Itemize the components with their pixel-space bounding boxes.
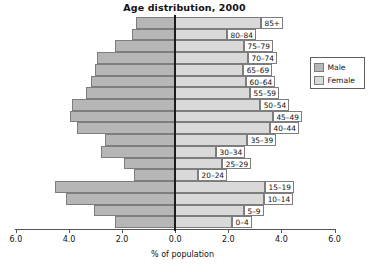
x-axis-title: % of population [0,250,369,259]
legend-label-female: Female [328,76,355,85]
x-axis-tick-label: 6.0 [328,235,341,244]
legend-item-female: Female [314,74,364,86]
bar-female [175,169,198,181]
age-group-label: 5–9 [244,205,264,217]
bar-female [175,52,248,64]
x-axis-tick [335,229,336,233]
legend: Male Female [310,57,365,89]
age-group-label: 85+ [261,17,283,29]
bar-male [132,29,175,41]
bar-female [175,181,265,193]
pyramid-row: 30–34 [0,146,369,158]
plot-area: 85+80–8475–7970–7465–6960–6455–5950–5445… [0,17,369,229]
bar-female [175,17,261,29]
pyramid-row: 55–59 [0,87,369,99]
age-group-label: 0–4 [232,216,252,228]
age-group-label: 50–54 [260,99,289,111]
bar-female [175,122,270,134]
legend-item-male: Male [314,61,364,73]
x-axis-tick [69,229,70,233]
pyramid-row: 50–54 [0,99,369,111]
bar-female [175,29,227,41]
x-axis-tick-label: 6.0 [10,235,23,244]
age-group-label: 20–24 [198,169,227,181]
bar-female [175,146,216,158]
chart-title: Age distribution, 2000 [0,2,369,13]
pyramid-row: 0–4 [0,216,369,228]
age-group-label: 70–74 [248,52,277,64]
bar-female [175,216,232,228]
x-axis: 6.04.02.00.02.04.06.0 % of population [0,229,369,274]
age-group-label: 45–49 [273,111,302,123]
bar-female [175,76,246,88]
bar-male [115,216,175,228]
x-axis-tick [228,229,229,233]
bar-female [175,111,273,123]
bar-female [175,64,243,76]
x-axis-tick-label: 2.0 [222,235,235,244]
age-group-label: 30–34 [216,146,245,158]
bar-male [95,64,175,76]
age-group-label: 55–59 [250,87,279,99]
bar-male [72,99,175,111]
age-group-label: 40–44 [270,122,299,134]
age-group-label: 65–69 [243,64,272,76]
age-group-label: 15–19 [265,181,294,193]
x-axis-tick [281,229,282,233]
bar-female [175,158,222,170]
pyramid-row: 85+ [0,17,369,29]
pyramid-row: 75–79 [0,40,369,52]
pyramid-row: 20–24 [0,169,369,181]
bar-male [86,87,175,99]
bar-male [94,205,175,217]
age-group-label: 60–64 [246,76,275,88]
pyramid-row: 40–44 [0,122,369,134]
x-axis-tick [122,229,123,233]
bar-male [115,40,175,52]
bar-male [66,193,175,205]
pyramid-row: 15–19 [0,181,369,193]
bar-male [105,134,175,146]
pyramid-row: 80–84 [0,29,369,41]
pyramid-row: 35–39 [0,134,369,146]
bar-male [136,17,175,29]
bar-female [175,40,244,52]
x-axis-title-text: % of population [151,250,214,259]
pyramid-row: 45–49 [0,111,369,123]
x-axis-tick-label: 4.0 [63,235,76,244]
bar-male [77,122,175,134]
legend-swatch-male-icon [314,63,324,72]
bar-male [70,111,175,123]
age-group-label: 25–29 [222,158,251,170]
bar-female [175,87,250,99]
bar-male [101,146,175,158]
bar-female [175,193,264,205]
population-pyramid-chart: Age distribution, 2000 85+80–8475–7970–7… [0,0,369,274]
age-group-label: 10–14 [264,193,293,205]
bar-female [175,205,244,217]
legend-label-male: Male [328,63,346,72]
pyramid-row: 25–29 [0,158,369,170]
center-axis-line [174,15,176,231]
bar-male [97,52,175,64]
chart-title-text: Age distribution, 2000 [123,2,245,13]
bar-female [175,134,247,146]
legend-swatch-female-icon [314,76,324,85]
bar-male [91,76,175,88]
x-axis-tick [16,229,17,233]
age-group-label: 80–84 [227,29,256,41]
bar-male [124,158,175,170]
age-group-label: 35–39 [247,134,276,146]
pyramid-row: 10–14 [0,193,369,205]
x-axis-tick-label: 0.0 [169,235,182,244]
bar-male [55,181,175,193]
x-axis-tick-label: 4.0 [275,235,288,244]
pyramid-row: 5–9 [0,205,369,217]
age-group-label: 75–79 [244,40,273,52]
bar-male [134,169,175,181]
x-axis-tick-label: 2.0 [116,235,129,244]
bar-female [175,99,260,111]
